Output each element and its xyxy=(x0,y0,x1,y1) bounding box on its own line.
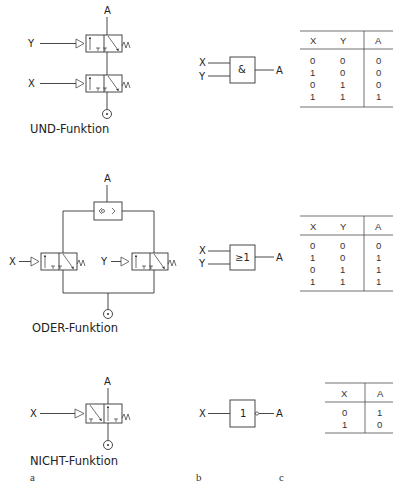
svg-text:X: X xyxy=(341,388,348,399)
svg-text:0: 0 xyxy=(376,67,381,78)
pressure-source-icon xyxy=(104,441,113,450)
svg-text:0: 0 xyxy=(340,252,345,263)
spring-icon xyxy=(122,82,130,88)
spring-icon xyxy=(122,42,130,48)
or-gate-input-x: X xyxy=(199,245,206,256)
panel-label-c: c xyxy=(279,471,284,483)
svg-text:1: 1 xyxy=(377,407,382,418)
spring-icon xyxy=(168,260,176,266)
and-gate-input-x: X xyxy=(199,57,206,68)
svg-text:0: 0 xyxy=(310,79,315,90)
svg-text:1: 1 xyxy=(310,276,315,287)
pilot-triangle-icon xyxy=(31,257,39,266)
or-function-title: ODER-Funktion xyxy=(32,321,118,335)
negation-bubble-icon xyxy=(255,412,258,415)
not-function-title: NICHT-Funktion xyxy=(30,454,118,468)
and-gate-symbol: & xyxy=(238,64,246,75)
svg-text:0: 0 xyxy=(340,240,345,251)
or-output-label: A xyxy=(104,173,111,184)
not-gate-input-x: X xyxy=(199,408,206,419)
and-valve-x xyxy=(40,75,130,92)
not-truth-table: X A 0 1 1 0 xyxy=(325,383,393,433)
svg-text:1: 1 xyxy=(340,91,345,102)
or-gate-output: A xyxy=(276,252,283,263)
svg-text:1: 1 xyxy=(342,419,347,430)
svg-text:1: 1 xyxy=(376,91,381,102)
and-input-y-label: Y xyxy=(27,38,35,49)
svg-text:1: 1 xyxy=(310,91,315,102)
and-gate: X Y & A xyxy=(198,57,283,83)
pilot-triangle-icon xyxy=(121,257,129,266)
and-truth-table: X Y A 0 0 0 1 0 0 0 1 0 1 1 1 xyxy=(300,31,393,107)
svg-text:Y: Y xyxy=(340,221,347,232)
and-valve-y xyxy=(40,35,130,52)
or-valve-y xyxy=(111,253,176,270)
and-gate-input-y: Y xyxy=(198,71,206,82)
svg-text:A: A xyxy=(375,35,382,46)
svg-text:0: 0 xyxy=(310,240,315,251)
panel-label-b: b xyxy=(196,471,202,483)
svg-text:0: 0 xyxy=(340,55,345,66)
svg-text:1: 1 xyxy=(310,252,315,263)
svg-text:Y: Y xyxy=(340,35,347,46)
and-pneumatic-circuit: A Y X U xyxy=(27,5,130,136)
pressure-source-icon xyxy=(104,310,113,319)
svg-text:1: 1 xyxy=(310,67,315,78)
and-input-x-label: X xyxy=(28,78,35,89)
and-gate-output: A xyxy=(276,65,283,76)
svg-text:1: 1 xyxy=(340,276,345,287)
not-pneumatic-circuit: A X NICHT-Funktion xyxy=(30,376,130,468)
svg-text:0: 0 xyxy=(310,264,315,275)
not-gate: X 1 A xyxy=(199,400,283,427)
or-pneumatic-circuit: A X xyxy=(9,173,176,335)
svg-text:X: X xyxy=(310,221,317,232)
not-output-label: A xyxy=(104,376,111,387)
spring-icon xyxy=(122,414,130,420)
svg-text:1: 1 xyxy=(340,264,345,275)
pilot-triangle-icon xyxy=(75,409,84,418)
not-input-x-label: X xyxy=(30,408,37,419)
and-function-title: UND-Funktion xyxy=(30,122,109,136)
shuttle-valve xyxy=(94,202,122,220)
not-gate-output: A xyxy=(276,408,283,419)
svg-text:1: 1 xyxy=(376,276,381,287)
panel-label-a: a xyxy=(30,471,35,483)
svg-text:0: 0 xyxy=(310,55,315,66)
spring-icon xyxy=(77,260,85,266)
svg-text:0: 0 xyxy=(376,240,381,251)
and-output-label: A xyxy=(104,5,111,16)
svg-text:1: 1 xyxy=(376,252,381,263)
svg-text:0: 0 xyxy=(342,407,347,418)
pilot-triangle-icon xyxy=(76,39,84,48)
pressure-source-icon xyxy=(103,110,112,119)
or-gate: X Y ≥1 A xyxy=(198,245,283,270)
svg-text:0: 0 xyxy=(376,79,381,90)
not-gate-symbol: 1 xyxy=(240,408,246,419)
svg-text:A: A xyxy=(375,221,382,232)
svg-text:0: 0 xyxy=(376,55,381,66)
pilot-triangle-icon xyxy=(76,79,84,88)
or-gate-input-y: Y xyxy=(198,258,206,269)
svg-text:0: 0 xyxy=(377,419,382,430)
svg-text:1: 1 xyxy=(340,79,345,90)
or-truth-table: X Y A 0 0 0 1 0 1 0 1 1 1 1 1 xyxy=(300,216,393,291)
svg-text:0: 0 xyxy=(340,67,345,78)
svg-text:1: 1 xyxy=(376,264,381,275)
svg-text:X: X xyxy=(310,35,317,46)
not-valve xyxy=(40,404,130,423)
or-gate-symbol: ≥1 xyxy=(235,252,250,263)
or-input-x-label: X xyxy=(9,256,16,267)
svg-text:A: A xyxy=(377,388,384,399)
or-valve-x xyxy=(19,253,85,270)
or-input-y-label: Y xyxy=(100,256,108,267)
